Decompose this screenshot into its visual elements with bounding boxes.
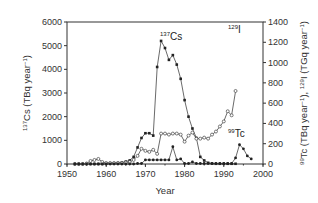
data-point (218, 162, 221, 165)
data-point (105, 163, 108, 166)
data-point (195, 162, 198, 165)
data-point (124, 163, 127, 166)
data-point (242, 147, 245, 150)
data-point (89, 159, 92, 162)
data-point (230, 114, 233, 117)
data-point (175, 159, 178, 162)
data-point (187, 162, 190, 165)
data-point (207, 162, 210, 165)
data-point (199, 162, 202, 165)
data-point (226, 162, 229, 165)
data-point (168, 159, 171, 162)
annotation-cs137: 137Cs (160, 31, 182, 42)
data-point (214, 130, 217, 133)
data-point (179, 133, 182, 136)
data-point (191, 127, 194, 130)
data-point (97, 163, 100, 166)
data-point (164, 159, 167, 162)
y-left-tick-label: 3000 (42, 88, 62, 98)
data-point (195, 137, 198, 140)
svg-text:137Cs (TBq year−1): 137Cs (TBq year−1) (21, 55, 32, 131)
data-point (183, 99, 186, 102)
left-axis-title-close: ) (21, 55, 32, 58)
data-point (81, 163, 84, 166)
data-point (207, 137, 210, 140)
data-point (89, 163, 92, 166)
data-point (152, 134, 155, 137)
data-point (117, 163, 120, 166)
data-point (199, 137, 202, 140)
data-point (211, 133, 214, 136)
right-axis-title-tc-main: Tc (TBq year (298, 104, 309, 158)
y-right-tick-label: 600 (268, 98, 283, 108)
data-point (164, 47, 167, 50)
data-point (215, 162, 218, 165)
data-point (148, 150, 151, 153)
data-point (179, 158, 182, 161)
data-point (128, 163, 131, 166)
data-point (203, 159, 206, 162)
axis-ticks: 1950196019701980199020000100020003000400… (42, 17, 288, 179)
left-axis-title: 137Cs (TBq year−1) (21, 55, 32, 131)
data-point (140, 137, 143, 140)
data-point (85, 163, 88, 166)
y-left-tick-label: 6000 (42, 17, 62, 27)
data-point (250, 158, 253, 161)
data-point (160, 132, 163, 135)
y-right-tick-label: 400 (268, 118, 283, 128)
data-point (211, 162, 214, 165)
y-right-tick-label: 1200 (268, 37, 288, 47)
y-right-tick-label: 1000 (268, 58, 288, 68)
x-tick-label: 1970 (135, 169, 155, 179)
annotation-i129: 129I (228, 24, 241, 35)
y-right-tick-label: 800 (268, 78, 283, 88)
data-point (167, 133, 170, 136)
data-point (109, 163, 112, 166)
data-point (230, 162, 233, 165)
data-point (222, 120, 225, 123)
data-point (246, 154, 249, 157)
data-point (93, 163, 96, 166)
data-point (222, 162, 225, 165)
data-point (120, 163, 123, 166)
data-point (234, 162, 237, 165)
data-point (101, 163, 104, 166)
data-point (199, 156, 202, 159)
data-series (73, 40, 252, 166)
data-point (191, 161, 194, 164)
data-point (144, 149, 147, 152)
data-point (171, 145, 174, 148)
data-point (160, 40, 163, 43)
chart-canvas: 1950196019701980199020000100020003000400… (0, 0, 318, 203)
svg-text:99Tc (TBq year−1), 129I (TGq y: 99Tc (TBq year−1), 129I (TGq year−1) (298, 21, 309, 165)
data-point (140, 147, 143, 150)
y-left-tick-label: 2000 (42, 112, 62, 122)
data-point (234, 89, 237, 92)
data-point (152, 148, 155, 151)
data-point (144, 132, 147, 135)
data-point (218, 125, 221, 128)
data-point (97, 157, 100, 160)
plot-frame (67, 22, 263, 164)
data-point (203, 162, 206, 165)
data-point (156, 152, 159, 155)
x-axis-title: Year (155, 185, 174, 196)
y-left-tick-label: 4000 (42, 64, 62, 74)
data-point (183, 140, 186, 143)
data-point (132, 156, 135, 159)
data-point (191, 131, 194, 134)
y-right-tick-label: 200 (268, 139, 283, 149)
data-point (175, 132, 178, 135)
data-point (132, 163, 135, 166)
data-point (187, 115, 190, 118)
data-point (113, 163, 116, 166)
y-left-tick-label: 5000 (42, 41, 62, 51)
data-point (179, 78, 182, 81)
x-tick-label: 1980 (175, 169, 195, 179)
data-point (234, 157, 237, 160)
left-axis-title-main: Cs (TBq year (21, 65, 32, 121)
y-right-tick-label: 0 (268, 159, 273, 169)
data-point (148, 159, 151, 162)
y-left-tick-label: 0 (57, 159, 62, 169)
x-tick-label: 1990 (214, 169, 234, 179)
